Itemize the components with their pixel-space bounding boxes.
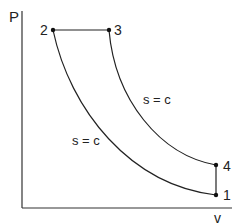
process-1-2 (53, 30, 216, 195)
point-4 (214, 163, 218, 167)
point-label-2: 2 (40, 22, 48, 38)
point-1 (214, 193, 218, 197)
pv-diagram: P v 2 3 4 1 s = c s = c (0, 0, 234, 224)
x-axis-label: v (214, 210, 221, 224)
point-label-3: 3 (114, 22, 122, 38)
process-label-3-4: s = c (143, 92, 171, 107)
process-label-1-2: s = c (72, 133, 100, 148)
point-label-4: 4 (223, 158, 231, 174)
point-3 (107, 28, 111, 32)
point-2 (51, 28, 55, 32)
point-label-1: 1 (223, 187, 231, 203)
y-axis-label: P (9, 8, 19, 25)
